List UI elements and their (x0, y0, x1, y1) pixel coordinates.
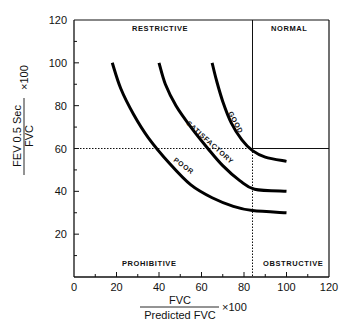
x-tick-label: 60 (195, 281, 207, 293)
y-axis-denominator: FVC (23, 125, 35, 147)
x-ticks: 020406080100120 (71, 272, 338, 293)
y-tick-label: 120 (49, 14, 67, 26)
y-tick-label: 60 (55, 143, 67, 155)
y-tick-label: 20 (55, 228, 67, 240)
y-axis-multiplier: ×100 (18, 65, 30, 90)
curve-label-satisfactory: SATISFACTORY (185, 120, 235, 166)
x-axis-denominator: Predicted FVC (144, 309, 216, 321)
x-tick-label: 0 (71, 281, 77, 293)
x-tick-label: 80 (238, 281, 250, 293)
y-axis-numerator: FEV 0.5 Sec (11, 105, 23, 167)
region-labels: RESTRICTIVE NORMAL PROHIBITIVE OBSTRUCTI… (122, 24, 323, 268)
y-tick-label: 100 (49, 57, 67, 69)
region-label-normal: NORMAL (271, 24, 308, 33)
region-label-restrictive: RESTRICTIVE (132, 24, 188, 33)
curve-labels: GOOD SATISFACTORY POOR (172, 110, 244, 175)
curve-good (212, 63, 286, 162)
region-dividers (74, 20, 329, 277)
curves (112, 63, 286, 213)
curve-label-poor: POOR (172, 156, 195, 175)
x-axis-multiplier: ×100 (222, 301, 247, 313)
x-tick-label: 100 (277, 281, 295, 293)
chart: 020406080100120 20406080100120 RESTRICTI… (0, 0, 348, 331)
x-tick-label: 20 (110, 281, 122, 293)
x-axis-title: FVC Predicted FVC ×100 (140, 294, 247, 321)
x-axis-numerator: FVC (169, 294, 191, 306)
y-axis-title: FEV 0.5 Sec FVC ×100 (11, 65, 35, 175)
region-label-prohibitive: PROHIBITIVE (122, 259, 177, 268)
x-tick-label: 40 (153, 281, 165, 293)
region-label-obstructive: OBSTRUCTIVE (263, 259, 323, 268)
y-tick-label: 80 (55, 100, 67, 112)
x-tick-label: 120 (320, 281, 338, 293)
y-tick-label: 40 (55, 185, 67, 197)
